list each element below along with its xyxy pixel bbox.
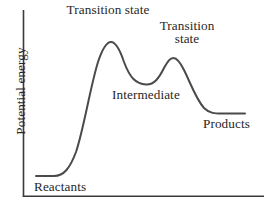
potential-energy-diagram: Potential energy Transition state Transi… xyxy=(0,0,264,209)
intermediate-label: Intermediate xyxy=(112,88,180,101)
transition-state-1-label: Transition state xyxy=(66,3,150,16)
y-axis-title: Potential energy xyxy=(14,0,32,186)
products-label: Products xyxy=(203,117,250,130)
reactants-label: Reactants xyxy=(34,180,86,193)
transition-state-2-label: Transition state xyxy=(148,19,226,46)
curve-path xyxy=(36,42,245,176)
